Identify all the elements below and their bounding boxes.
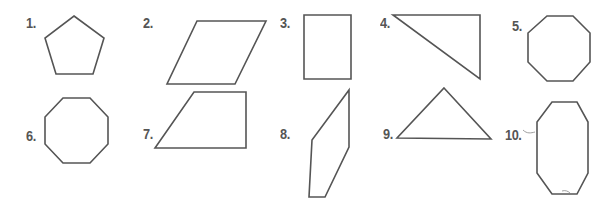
pencil-mark — [523, 130, 535, 133]
shape-6-octagon — [45, 98, 108, 163]
shape-2-parallelogram — [167, 21, 266, 84]
pencil-mark — [562, 191, 570, 193]
item-number-2: 2. — [143, 15, 153, 30]
shape-3-rectangle — [304, 15, 351, 79]
item-number-9: 9. — [383, 126, 393, 141]
item-number-5: 5. — [512, 18, 522, 33]
shape-9-triangle — [397, 88, 491, 139]
item-number-7: 7. — [143, 126, 153, 141]
shape-5-octagon — [528, 16, 590, 81]
shape-10-elongated-octagon — [537, 102, 588, 194]
item-number-1: 1. — [26, 15, 36, 30]
item-number-3: 3. — [280, 15, 290, 30]
shape-8-irregular-quadrilateral — [309, 90, 349, 197]
item-number-4: 4. — [380, 15, 390, 30]
shape-4-right-triangle — [393, 15, 480, 79]
item-number-6: 6. — [26, 128, 36, 143]
shapes-canvas — [0, 0, 615, 210]
shape-1-pentagon — [45, 16, 104, 74]
item-number-10: 10. — [505, 127, 521, 142]
shape-7-trapezoid — [155, 92, 246, 148]
shapes-worksheet: 1. 2. 3. 4. 5. 6. 7. 8. 9. 10. — [0, 0, 615, 210]
item-number-8: 8. — [280, 126, 290, 141]
